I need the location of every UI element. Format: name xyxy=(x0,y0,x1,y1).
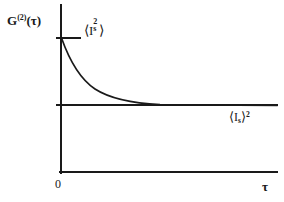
y-axis-label-base: G xyxy=(7,13,17,28)
origin-label: 0 xyxy=(55,178,61,190)
plot-canvas xyxy=(0,0,284,202)
asymptote-exponent: 2 xyxy=(246,110,250,119)
y-axis-label-argument: (τ) xyxy=(26,13,41,28)
peak-indices: 2s xyxy=(93,22,98,35)
peak-subscript: s xyxy=(93,25,96,33)
y-axis-label: G(2)(τ) xyxy=(7,14,41,27)
x-axis-label: τ xyxy=(262,180,268,193)
asymptote-value-label: ⟨Is⟩2 xyxy=(229,111,250,125)
peak-value-label: ⟨I2s⟩ xyxy=(84,22,104,38)
peak-bracket-close: ⟩ xyxy=(99,23,104,38)
correlation-function-figure: G(2)(τ) ⟨I2s⟩ ⟨Is⟩2 0 τ xyxy=(0,0,284,202)
decay-curve xyxy=(62,38,278,106)
